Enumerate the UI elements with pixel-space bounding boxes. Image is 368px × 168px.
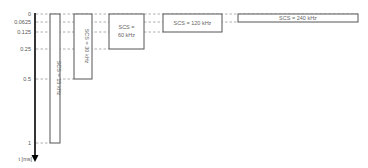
tick-labels: 0 0.0625 0.125 0.25 0.5 1 [14,11,31,146]
tick-label: 0.25 [20,46,31,52]
slot-label-60khz-line2: 60 kHz [118,32,135,38]
axis-label: t [ms] [19,156,33,162]
tick-label: 0.125 [17,29,31,35]
tick-label: 0.0625 [14,19,31,25]
slot-label-240khz: SCS = 240 kHz [279,15,317,21]
tick-label: 1 [28,140,31,146]
slot-label-120khz: SCS = 120 kHz [174,20,212,26]
slot-label-15khz: SCS = 15 kHz [56,61,62,96]
axis-arrow-icon [32,155,39,162]
slot-label-30khz: SCS = 30 kHz [84,29,90,64]
tick-label: 0 [28,11,31,17]
slot-label-60khz-line1: SCS = [118,24,134,30]
slot-duration-diagram: 0 0.0625 0.125 0.25 0.5 1 t [ms] SCS = 1… [0,0,368,168]
tick-label: 0.5 [23,76,31,82]
